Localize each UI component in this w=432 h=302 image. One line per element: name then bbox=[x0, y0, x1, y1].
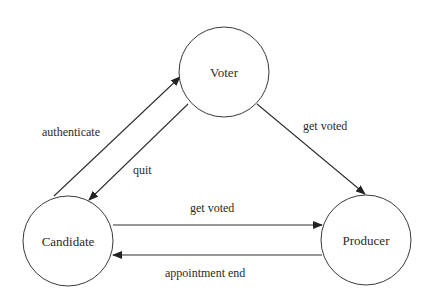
edge-label-get-voted-voter: get voted bbox=[303, 119, 347, 133]
edge-appointment-end: appointment end bbox=[113, 255, 322, 280]
nodes: Voter Candidate Producer bbox=[23, 27, 411, 286]
edge-get-voted-from-voter: get voted bbox=[257, 104, 365, 194]
edge-get-voted-from-candidate: get voted bbox=[113, 201, 322, 225]
node-voter: Voter bbox=[179, 27, 269, 117]
edge-label-get-voted-candidate: get voted bbox=[190, 201, 234, 215]
arrow-voter-to-producer bbox=[257, 104, 365, 194]
edge-label-appointment-end: appointment end bbox=[165, 266, 245, 280]
node-label-voter: Voter bbox=[210, 65, 239, 80]
edge-label-quit: quit bbox=[133, 163, 152, 177]
arrow-voter-to-candidate bbox=[89, 104, 188, 200]
edge-quit: quit bbox=[89, 104, 188, 200]
node-label-candidate: Candidate bbox=[42, 234, 95, 249]
state-diagram: authenticate quit get voted get voted ap… bbox=[0, 0, 432, 302]
node-candidate: Candidate bbox=[23, 196, 113, 286]
node-producer: Producer bbox=[321, 195, 411, 285]
node-label-producer: Producer bbox=[343, 233, 391, 248]
edge-label-authenticate: authenticate bbox=[42, 125, 100, 139]
